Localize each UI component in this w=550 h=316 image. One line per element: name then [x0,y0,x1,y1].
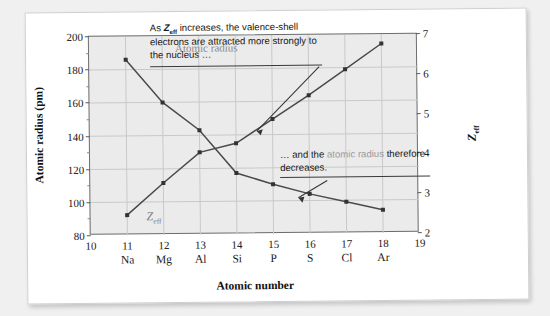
y-axis-right-title-base: Z [465,134,479,141]
y-left-tickmark [86,136,90,137]
x-tick-label: 11 [122,239,133,251]
y-right-tickmark [417,113,421,114]
screenshot-root: Atomic radius (pm) Zeff Atomic number [0,0,550,316]
y-axis-left-title: Atomic radius (pm) [32,87,45,184]
y-left-tickmark [86,169,90,170]
y-left-tickmark [86,202,90,203]
x-element-symbol: Ar [377,251,389,263]
y-left-tickmark-minor [86,53,89,54]
plot-area: 80 100 120 140 160 180 200 [88,33,419,235]
annotation-two-highlight: atomic radius [327,148,384,160]
chart-figure: Atomic radius (pm) Zeff Atomic number [26,9,529,304]
y-axis-right-title-sub: eff [472,125,481,133]
y-left-tickmark [87,235,91,236]
x-tick-label: 18 [378,237,389,249]
x-tick-label: 10 [85,240,96,252]
x-tick-label: 17 [341,237,352,249]
y-left-tickmark [85,103,89,104]
y-left-tick-label: 160 [67,97,84,109]
x-tick-label: 12 [158,239,169,251]
y-left-tickmark [85,36,89,37]
y-right-tick-label: 7 [423,28,429,40]
y-left-tick-label: 200 [66,31,83,43]
x-element-symbol: Al [195,253,207,265]
x-tick-label: 19 [414,237,425,249]
y-left-tick-label: 80 [74,230,85,242]
y-left-tick-label: 120 [68,164,85,176]
figure-page: Atomic radius (pm) Zeff Atomic number [25,8,530,305]
x-element-symbol: Na [121,253,135,265]
x-element-symbol: Mg [156,253,172,265]
y-left-tick-label: 140 [67,130,84,142]
annotation-two-lead: … and the [280,149,327,160]
y-right-tickmark [416,73,420,74]
x-tick-label: 14 [231,238,242,250]
annotation-one-prefix: As [150,22,164,33]
annotation-one-zeff-symbol: Zeff [164,22,177,33]
y-left-tickmark-minor [87,119,90,120]
x-element-symbol: Cl [341,251,352,263]
x-tick-label: 13 [195,239,206,251]
y-right-tick-label: 2 [425,227,431,239]
y-left-tickmark-minor [86,86,89,87]
y-axis-right-title: Zeff [465,125,482,141]
annotation-zeff-increases: As Zeff increases, the valence-shell ele… [150,20,330,62]
y-right-tickmark [418,232,422,233]
y-left-tickmark-minor [88,219,91,220]
x-axis-title: Atomic number [216,279,294,292]
x-element-symbol: S [307,252,314,264]
y-left-tick-label: 180 [67,64,84,76]
y-right-tick-label: 5 [424,107,430,119]
grid-horizontal [89,67,419,203]
y-left-tick-label: 100 [68,197,85,209]
x-tick-label: 16 [305,238,316,250]
annotation-radius-decreases: … and the atomic radius therefore decrea… [280,147,440,174]
y-left-tickmark [85,69,89,70]
plot-svg [89,34,420,236]
y-right-tickmark [417,192,421,193]
y-right-tick-label: 6 [423,67,429,79]
x-element-symbol: Si [232,252,242,264]
y-right-tick-label: 3 [424,187,430,199]
y-left-tickmark-minor [87,185,90,186]
x-tick-label: 15 [268,238,279,250]
y-left-tickmark-minor [87,152,90,153]
y-right-tickmark [416,33,420,34]
x-element-symbol: P [271,252,278,264]
